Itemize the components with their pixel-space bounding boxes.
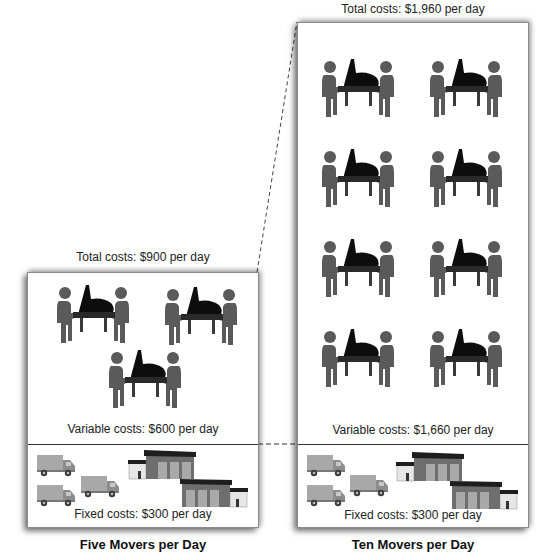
right-caption: Ten Movers per Day	[297, 537, 529, 552]
right-fixed-costs-label: Fixed costs: $300 per day	[298, 508, 528, 522]
piano-movers-icon	[318, 327, 398, 389]
truck-icon	[36, 453, 76, 477]
truck-icon	[80, 474, 120, 498]
piano-movers-icon	[426, 327, 506, 389]
left-fixed-costs-label: Fixed costs: $300 per day	[28, 507, 258, 521]
piano-movers-icon	[318, 57, 398, 119]
piano-movers-icon	[105, 348, 185, 410]
piano-movers-icon	[53, 283, 133, 345]
left-panel-five-movers: Variable costs: $600 per day Fixed costs…	[27, 272, 259, 528]
truck-icon	[306, 453, 346, 477]
left-caption: Five Movers per Day	[27, 537, 259, 552]
right-variable-costs-label: Variable costs: $1,660 per day	[298, 423, 528, 437]
piano-movers-icon	[426, 237, 506, 299]
left-total-costs-label: Total costs: $900 per day	[27, 250, 259, 264]
right-panel-ten-movers: Variable costs: $1,660 per day Fixed cos…	[297, 22, 529, 528]
truck-icon	[306, 483, 346, 507]
total-connector-dashed-line	[257, 22, 297, 272]
left-variable-fixed-divider	[28, 444, 258, 445]
truck-icon	[36, 483, 76, 507]
right-total-costs-label: Total costs: $1,960 per day	[297, 2, 529, 16]
warehouse-icon	[178, 477, 248, 509]
piano-movers-icon	[161, 285, 241, 347]
piano-movers-icon	[318, 237, 398, 299]
piano-movers-icon	[426, 57, 506, 119]
truck-icon	[349, 473, 389, 497]
left-variable-costs-label: Variable costs: $600 per day	[28, 422, 258, 436]
warehouse-icon	[448, 479, 518, 511]
piano-movers-icon	[318, 147, 398, 209]
right-variable-fixed-divider	[298, 444, 528, 445]
piano-movers-icon	[426, 147, 506, 209]
